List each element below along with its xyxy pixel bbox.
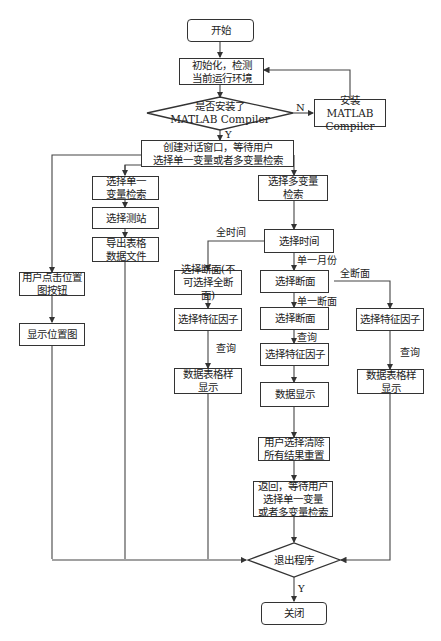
multi-var-node: 选择多变量 检索 [258, 175, 328, 201]
multi-var-label: 选择多变量 检索 [268, 175, 318, 201]
table-display-a-node: 数据表格样 显示 [174, 368, 242, 394]
table-display-a-label: 数据表格样 显示 [183, 368, 233, 394]
show-location-node: 显示位置图 [19, 323, 85, 346]
clear-reset-node: 用户选择清除 所有结果重置 [258, 437, 330, 461]
edge-label-query-c: 查询 [400, 347, 420, 359]
clear-reset-label: 用户选择清除 所有结果重置 [264, 436, 324, 462]
select-station-node: 选择测站 [92, 207, 159, 229]
click-location-node: 用户点击位置 图按钮 [19, 272, 85, 296]
export-table-label: 导出表格 数据文件 [106, 237, 146, 263]
click-location-label: 用户点击位置 图按钮 [22, 271, 82, 297]
start-label: 开始 [211, 24, 231, 37]
select-factor-a-label: 选择特征因子 [178, 313, 238, 326]
export-table-node: 导出表格 数据文件 [92, 237, 159, 262]
edge-label-all-sections: 全断面 [340, 268, 370, 280]
exit-program-label: 退出程序 [254, 554, 334, 567]
select-time-node: 选择时间 [264, 229, 334, 253]
data-display-label: 数据显示 [275, 388, 315, 401]
select-factor-a-node: 选择特征因子 [174, 308, 242, 331]
init-label: 初始化，检测 当前运行环境 [192, 59, 252, 85]
init-node: 初始化，检测 当前运行环境 [179, 58, 264, 85]
select-factor-b-label: 选择特征因子 [265, 348, 325, 361]
edge-label-query-a: 查询 [216, 343, 236, 355]
select-section-all-time-label: 选择断面(不 可选择全断面) [177, 263, 239, 302]
table-display-c-node: 数据表格样 显示 [357, 369, 424, 394]
single-var-label: 选择单一 变量检索 [106, 175, 146, 201]
return-wait-node: 返回，等待用户 选择单一变量 或者多变量检索 [253, 481, 333, 517]
start-node: 开始 [187, 19, 254, 42]
select-station-label: 选择测站 [106, 212, 146, 225]
edge-label-single-month: 单一月份 [297, 255, 337, 267]
data-display-node: 数据显示 [260, 382, 329, 407]
show-location-label: 显示位置图 [27, 328, 77, 341]
single-var-node: 选择单一 变量检索 [92, 176, 159, 200]
create-dialog-label: 创建对话窗口，等待用户 选择单一变量或者多变量检索 [153, 141, 283, 167]
install-label: 安装MATLAB Compiler [317, 94, 383, 133]
select-section-label: 选择断面 [275, 275, 315, 288]
check-installed-label: 是否安装了 MATLAB Compiler [160, 100, 280, 126]
return-wait-label: 返回，等待用户 选择单一变量 或者多变量检索 [258, 480, 328, 519]
edge-label-no: N [296, 102, 305, 114]
select-time-label: 选择时间 [279, 235, 319, 248]
select-section-node: 选择断面 [260, 270, 329, 293]
select-section-all-time-node: 选择断面(不 可选择全断面) [174, 270, 242, 295]
create-dialog-node: 创建对话窗口，等待用户 选择单一变量或者多变量检索 [141, 140, 294, 167]
select-section-single-node: 选择断面 [260, 307, 329, 330]
edge-label-query-b: 查询 [297, 332, 317, 344]
select-section-single-label: 选择断面 [275, 312, 315, 325]
table-display-c-label: 数据表格样 显示 [366, 369, 416, 395]
edge-label-single-section: 单一断面 [297, 296, 337, 308]
edge-label-all-time: 全时间 [216, 227, 246, 239]
close-node: 关闭 [261, 602, 327, 625]
edge-label-yes: Y [225, 129, 232, 141]
select-factor-c-label: 选择特征因子 [360, 313, 420, 326]
select-factor-b-node: 选择特征因子 [260, 343, 329, 366]
edge-label-exit-yes: Y [298, 583, 305, 595]
close-label: 关闭 [284, 607, 304, 620]
install-compiler-node: 安装MATLAB Compiler [314, 99, 386, 127]
select-factor-c-node: 选择特征因子 [356, 308, 424, 331]
